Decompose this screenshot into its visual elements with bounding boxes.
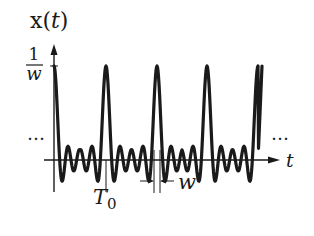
pulse-width-label: w — [178, 170, 196, 194]
x-axis-arrow-icon — [268, 157, 280, 164]
x-axis-label: t — [286, 149, 294, 171]
period-label: T0 — [93, 185, 117, 213]
signal-curve — [54, 66, 262, 181]
peak-value-denominator: w — [26, 63, 42, 84]
continuation-left: … — [27, 123, 45, 144]
continuation-right: … — [271, 123, 289, 144]
periodic-signal-diagram: x(t) 1 w … … t T0 w — [0, 0, 314, 236]
y-axis-arrow-icon — [51, 44, 58, 55]
y-axis-label: x(t) — [30, 8, 68, 33]
peak-value-numerator: 1 — [29, 44, 40, 64]
